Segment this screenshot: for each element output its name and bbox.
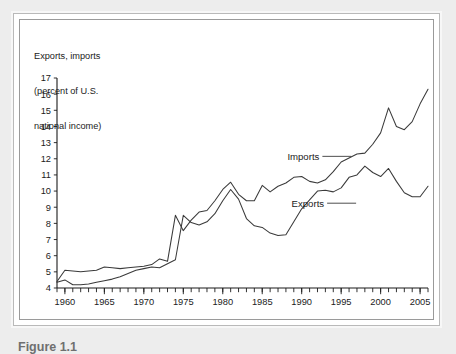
y-tick-label: 7 (46, 235, 51, 245)
y-tick-label: 10 (41, 186, 51, 196)
y-tick-label: 17 (41, 73, 51, 83)
x-tick-label: 1965 (94, 297, 115, 307)
series-label-imports: Imports (287, 151, 319, 162)
chart-plot-area: 4567891011121314151617196019651970197519… (20, 20, 433, 319)
x-tick-label: 1975 (173, 297, 194, 307)
figure-inner-border: Exports, imports (percent of U.S. nation… (19, 19, 434, 320)
x-tick-label: 1960 (55, 297, 76, 307)
y-tick-label: 6 (46, 251, 51, 261)
x-tick-label: 1990 (291, 297, 312, 307)
series-line-exports (57, 166, 428, 285)
series-line-imports (57, 89, 428, 281)
y-tick-label: 4 (46, 283, 51, 293)
y-tick-label: 12 (41, 154, 51, 164)
x-tick-label: 1995 (331, 297, 352, 307)
y-tick-label: 15 (41, 106, 51, 116)
y-tick-label: 13 (41, 138, 51, 148)
x-tick-label: 1985 (252, 297, 273, 307)
y-tick-label: 9 (46, 203, 51, 213)
page-root: Exports, imports (percent of U.S. nation… (0, 0, 456, 354)
y-tick-label: 14 (41, 122, 51, 132)
series-label-exports: Exports (292, 198, 325, 209)
x-tick-label: 2000 (370, 297, 391, 307)
x-tick-label: 1980 (212, 297, 233, 307)
line-chart: 4567891011121314151617196019651970197519… (20, 20, 435, 321)
y-tick-label: 11 (41, 170, 51, 180)
figure-caption-text: Figure 1.1 (18, 341, 218, 354)
y-tick-label: 8 (46, 219, 51, 229)
figure-frame: Exports, imports (percent of U.S. nation… (13, 13, 440, 326)
x-tick-label: 1970 (133, 297, 154, 307)
y-tick-label: 16 (41, 90, 51, 100)
figure-caption: Figure 1.1 (18, 341, 218, 354)
x-tick-label: 2005 (410, 297, 431, 307)
y-tick-label: 5 (46, 267, 51, 277)
